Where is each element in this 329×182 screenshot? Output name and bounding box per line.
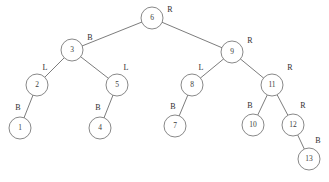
node-annotation-label: R xyxy=(167,5,173,14)
node-value: 11 xyxy=(268,80,275,89)
tree-node[interactable]: 3 xyxy=(61,39,83,61)
node-value: 3 xyxy=(70,45,74,54)
node-annotation-label: B xyxy=(247,101,252,110)
node-annotation-label: B xyxy=(315,136,320,145)
node-annotation-label: B xyxy=(95,103,100,112)
node-annotation-label: L xyxy=(199,63,204,72)
tree-node[interactable]: 7 xyxy=(164,115,186,137)
tree-node[interactable]: 1 xyxy=(9,117,31,139)
node-value: 8 xyxy=(190,80,194,89)
tree-node[interactable]: 13 xyxy=(298,148,320,170)
node-value: 13 xyxy=(305,154,313,163)
node-value: 5 xyxy=(115,80,119,89)
node-annotation-label: R xyxy=(300,101,306,110)
node-value: 2 xyxy=(35,80,39,89)
node-value: 7 xyxy=(173,121,177,130)
node-value: 6 xyxy=(150,13,154,22)
tree-edge xyxy=(277,95,288,116)
tree-node[interactable]: 5 xyxy=(106,74,128,96)
tree-canvas: 63925811147101213 RBRLLLRBBBBRB xyxy=(0,0,329,182)
node-annotation-label: L xyxy=(124,63,129,72)
tree-edge xyxy=(45,58,64,77)
node-value: 10 xyxy=(249,120,257,129)
node-annotation-label: B xyxy=(87,33,92,42)
node-annotation-label: R xyxy=(287,63,293,72)
node-value: 12 xyxy=(289,120,297,129)
tree-node[interactable]: 12 xyxy=(282,114,304,136)
node-annotation-label: L xyxy=(43,63,48,72)
node-annotation-label: B xyxy=(15,103,20,112)
tree-edge xyxy=(298,135,305,149)
node-annotation-label: R xyxy=(247,36,253,45)
tree-node[interactable]: 10 xyxy=(242,114,264,136)
tree-edge xyxy=(258,95,268,115)
tree-edge xyxy=(200,59,223,78)
node-annotation-label: B xyxy=(170,102,175,111)
tree-edge xyxy=(104,95,113,118)
tree-edge xyxy=(240,59,263,78)
tree-node[interactable]: 4 xyxy=(89,117,111,139)
tree-node[interactable]: 9 xyxy=(221,41,243,63)
binary-tree-figure: 63925811147101213 RBRLLLRBBBBRB xyxy=(0,0,329,182)
tree-edge xyxy=(162,22,222,47)
tree-node[interactable]: 6 xyxy=(141,7,163,29)
node-value: 4 xyxy=(98,123,102,132)
tree-node[interactable]: 2 xyxy=(26,74,48,96)
tree-edge xyxy=(24,95,33,118)
tree-nodes: 63925811147101213 xyxy=(9,7,320,170)
tree-node[interactable]: 8 xyxy=(181,74,203,96)
tree-node[interactable]: 11 xyxy=(261,74,283,96)
tree-edge xyxy=(81,57,109,79)
node-value: 9 xyxy=(230,47,234,56)
tree-edge xyxy=(179,95,188,116)
node-value: 1 xyxy=(18,123,22,132)
